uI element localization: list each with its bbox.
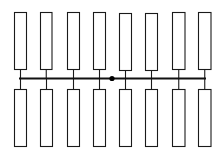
top-cell-8 <box>199 13 212 70</box>
junction-node <box>109 76 114 81</box>
bottom-cell-7 <box>173 90 186 147</box>
top-cell-7 <box>173 13 186 70</box>
bottom-cell-4 <box>94 90 106 147</box>
top-cell-5 <box>120 14 132 71</box>
top-cell-1 <box>15 13 27 70</box>
bottom-row <box>15 90 212 147</box>
top-cell-4 <box>94 13 106 70</box>
bottom-cell-2 <box>41 90 53 147</box>
top-cell-2 <box>41 13 53 70</box>
bottom-cell-3 <box>68 90 80 147</box>
top-cell-6 <box>146 14 158 71</box>
bottom-cell-5 <box>120 90 132 147</box>
bottom-cell-1 <box>15 90 27 147</box>
top-row <box>15 13 212 71</box>
bottom-cell-6 <box>146 90 158 147</box>
ladder-diagram <box>0 0 222 156</box>
bottom-cell-8 <box>199 90 212 147</box>
top-cell-3 <box>68 13 80 70</box>
